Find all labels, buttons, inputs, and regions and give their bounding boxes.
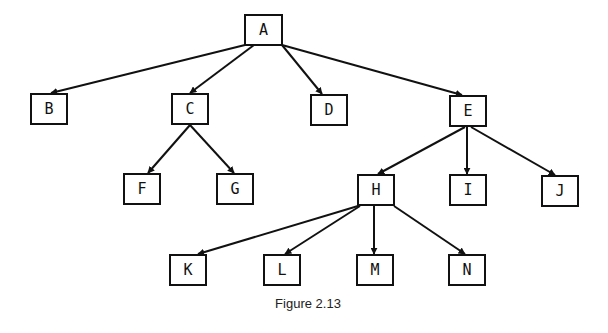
node-K: K bbox=[169, 254, 207, 286]
node-L: L bbox=[263, 254, 301, 286]
node-I: I bbox=[449, 174, 487, 206]
node-B: B bbox=[30, 93, 68, 125]
node-label: M bbox=[370, 261, 379, 279]
node-N: N bbox=[448, 254, 486, 286]
node-label: K bbox=[183, 261, 192, 279]
figure-caption: Figure 2.13 bbox=[0, 296, 608, 311]
node-label: A bbox=[259, 21, 268, 39]
node-C: C bbox=[171, 93, 209, 125]
edge-A-E bbox=[282, 45, 462, 95]
node-label: I bbox=[463, 181, 472, 199]
edge-H-K bbox=[198, 206, 358, 254]
node-label: E bbox=[463, 102, 472, 120]
edge-A-C bbox=[190, 45, 254, 93]
tree-diagram bbox=[0, 0, 608, 333]
node-F: F bbox=[123, 173, 161, 205]
edge-H-L bbox=[285, 206, 360, 254]
node-label: D bbox=[324, 101, 333, 119]
node-J: J bbox=[541, 175, 579, 207]
node-label: C bbox=[185, 100, 194, 118]
node-label: H bbox=[371, 181, 380, 199]
node-label: B bbox=[44, 100, 53, 118]
edge-A-D bbox=[282, 45, 322, 94]
tree-edges bbox=[51, 45, 555, 254]
edge-A-B bbox=[51, 45, 245, 93]
edge-C-G bbox=[190, 125, 234, 173]
edge-H-N bbox=[394, 206, 465, 254]
node-label: F bbox=[137, 180, 146, 198]
node-H: H bbox=[357, 174, 395, 206]
node-G: G bbox=[216, 173, 254, 205]
node-D: D bbox=[310, 94, 348, 126]
node-E: E bbox=[449, 95, 487, 127]
edge-C-F bbox=[148, 125, 190, 173]
node-label: N bbox=[462, 261, 471, 279]
node-M: M bbox=[356, 254, 394, 286]
edge-E-J bbox=[471, 127, 555, 175]
node-A: A bbox=[244, 14, 283, 46]
node-label: G bbox=[230, 180, 239, 198]
node-label: L bbox=[277, 261, 286, 279]
node-label: J bbox=[555, 182, 564, 200]
edge-E-H bbox=[378, 127, 465, 174]
